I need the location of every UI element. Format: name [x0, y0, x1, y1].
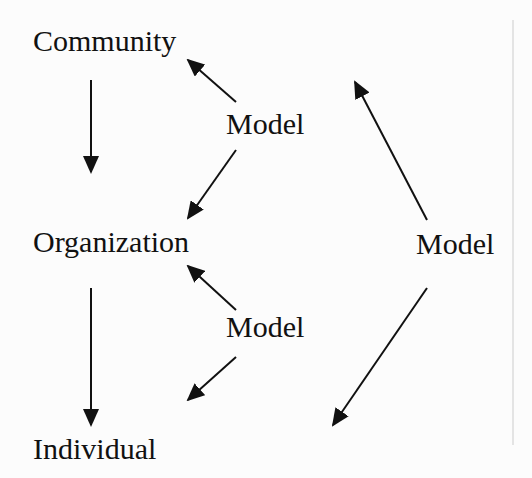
node-model-1: Model — [226, 109, 304, 139]
arrow-model3-to-individual — [333, 288, 427, 425]
node-model-2: Model — [226, 312, 304, 342]
node-community: Community — [33, 26, 176, 56]
arrow-model2-to-organization — [188, 266, 236, 310]
node-individual: Individual — [33, 434, 156, 464]
arrow-model1-to-organization — [188, 150, 236, 218]
arrow-model1-to-community — [188, 60, 236, 102]
node-model-3: Model — [416, 229, 494, 259]
arrow-model3-to-community — [355, 82, 427, 220]
node-organization: Organization — [33, 227, 189, 257]
diagram-canvas: Community Organization Individual Model … — [0, 0, 532, 478]
arrow-model2-to-individual — [188, 357, 236, 400]
